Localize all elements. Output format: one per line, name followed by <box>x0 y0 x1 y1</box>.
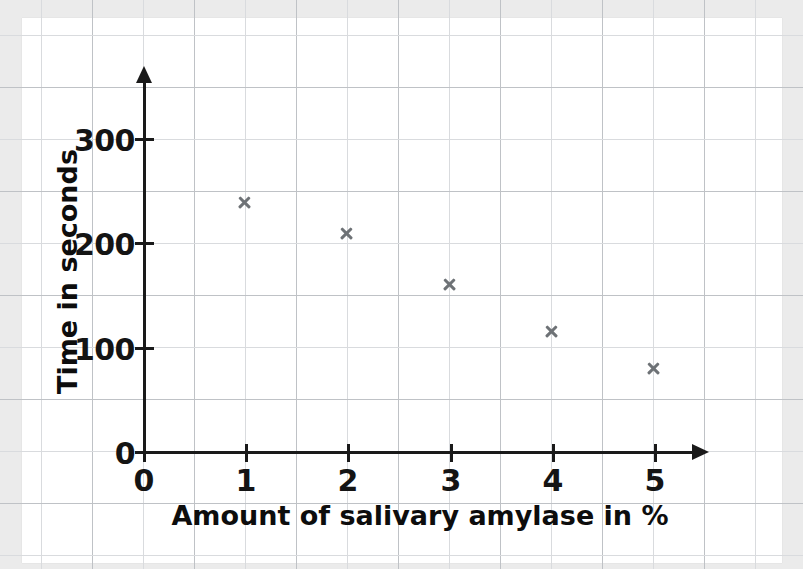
x-axis-label-1: 1 <box>224 463 268 498</box>
scatter-plot: 300 200 100 0 0 1 2 3 4 5 Time in second… <box>0 0 803 569</box>
x-axis-label-5: 5 <box>633 463 677 498</box>
y-axis-line <box>143 78 146 454</box>
x-axis-title: Amount of salivary amylase in % <box>120 500 720 531</box>
x-axis-tick-0 <box>143 444 146 462</box>
data-point-marker <box>543 324 559 340</box>
x-axis-label-0: 0 <box>122 463 166 498</box>
x-axis-tick-5 <box>654 444 657 462</box>
x-axis-arrow-icon <box>692 444 709 460</box>
scanned-page-background: 300 200 100 0 0 1 2 3 4 5 Time in second… <box>0 0 803 569</box>
y-axis-tick-100 <box>135 347 154 350</box>
y-axis-arrow-icon <box>136 66 152 83</box>
data-point-marker <box>441 277 457 293</box>
y-axis-tick-200 <box>135 242 154 245</box>
x-axis-label-4: 4 <box>531 463 575 498</box>
data-point-marker <box>236 195 252 211</box>
x-axis-line <box>143 451 695 454</box>
x-axis-label-2: 2 <box>326 463 370 498</box>
x-axis-tick-2 <box>347 444 350 462</box>
x-axis-tick-4 <box>552 444 555 462</box>
x-axis-tick-1 <box>245 444 248 462</box>
y-axis-title: Time in seconds <box>52 127 83 417</box>
y-axis-tick-300 <box>135 138 154 141</box>
data-point-marker <box>645 361 661 377</box>
x-axis-tick-3 <box>450 444 453 462</box>
x-axis-label-3: 3 <box>429 463 473 498</box>
data-point-marker <box>338 226 354 242</box>
